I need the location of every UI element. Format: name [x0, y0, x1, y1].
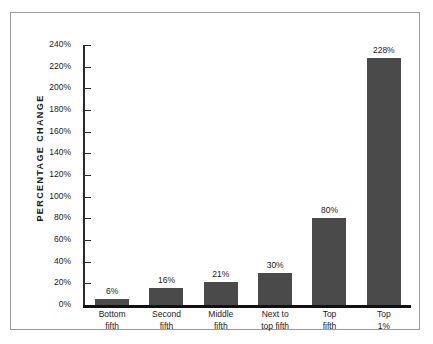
x-axis-category-label-line: fifth: [139, 321, 193, 333]
x-axis-category-label: Next totop fifth: [248, 309, 302, 332]
bar-group: 30%: [248, 41, 302, 305]
bar: [95, 299, 129, 306]
x-axis-category-label-line: fifth: [302, 321, 356, 333]
x-axis-category-label-line: 1%: [357, 321, 411, 333]
chart-figure: PERCENTAGE CHANGE 0%20%40%60%80%100%120%…: [0, 0, 433, 344]
bar-value-label: 228%: [373, 45, 395, 55]
chart-frame: PERCENTAGE CHANGE 0%20%40%60%80%100%120%…: [10, 12, 420, 330]
y-axis-tick-label: 20%: [54, 277, 71, 287]
bar-value-label: 16%: [158, 275, 175, 285]
bar-group: 6%: [85, 41, 139, 305]
y-axis-title: PERCENTAGE CHANGE: [35, 83, 45, 233]
y-axis-tick-label: 160%: [49, 126, 71, 136]
y-axis-tick-label: 180%: [49, 104, 71, 114]
bar-value-label: 21%: [212, 269, 229, 279]
bar-series: 6%16%21%30%80%228%: [85, 41, 411, 305]
x-axis-category-label: Topfifth: [302, 309, 356, 332]
x-axis-category-label: Middlefifth: [194, 309, 248, 332]
y-axis-tick-label: 120%: [49, 169, 71, 179]
y-axis-tick-label: 0%: [59, 299, 71, 309]
x-axis-baseline: [83, 305, 411, 308]
x-axis-category-label-line: Top: [357, 309, 411, 321]
y-axis-tick-label: 60%: [54, 234, 71, 244]
y-axis-tick-label: 220%: [49, 61, 71, 71]
bar: [149, 288, 183, 305]
bar-value-label: 80%: [321, 205, 338, 215]
x-axis-category-label: Top1%: [357, 309, 411, 332]
bar: [312, 218, 346, 305]
y-axis-tick-label: 140%: [49, 147, 71, 157]
y-axis-tick-label: 240%: [49, 39, 71, 49]
y-axis-tick-label: 80%: [54, 212, 71, 222]
y-axis-tick-label: 100%: [49, 191, 71, 201]
plot-area: 0%20%40%60%80%100%120%140%160%180%200%22…: [83, 41, 411, 305]
x-axis-category-label: Bottomfifth: [85, 309, 139, 332]
bar-group: 16%: [139, 41, 193, 305]
bar-value-label: 30%: [267, 260, 284, 270]
x-axis-category-label-line: Top: [302, 309, 356, 321]
bar: [367, 58, 401, 305]
x-axis-category-label-line: Next to: [248, 309, 302, 321]
x-axis-category-label-line: fifth: [85, 321, 139, 333]
x-axis-category-label-line: top fifth: [248, 321, 302, 333]
x-axis-category-label-line: Middle: [194, 309, 248, 321]
x-axis-category-label-line: Bottom: [85, 309, 139, 321]
x-axis-category-label: Secondfifth: [139, 309, 193, 332]
y-axis-tick-label: 40%: [54, 256, 71, 266]
bar: [258, 273, 292, 306]
bar: [204, 282, 238, 305]
x-axis-category-label-line: fifth: [194, 321, 248, 333]
bar-group: 228%: [357, 41, 411, 305]
x-axis-category-labels: BottomfifthSecondfifthMiddlefifthNext to…: [85, 309, 411, 343]
bar-group: 80%: [302, 41, 356, 305]
bar-value-label: 6%: [106, 286, 118, 296]
x-axis-category-label-line: Second: [139, 309, 193, 321]
bar-group: 21%: [194, 41, 248, 305]
y-axis-tick-label: 200%: [49, 82, 71, 92]
